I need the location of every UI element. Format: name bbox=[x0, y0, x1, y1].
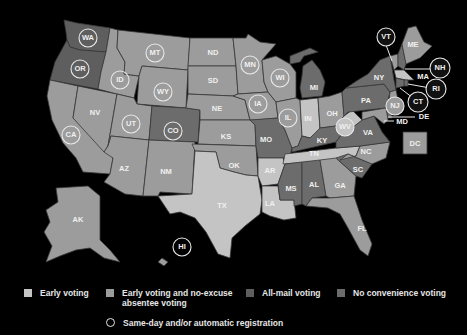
legend-label: All-mail voting bbox=[262, 288, 321, 298]
label-md: MD bbox=[396, 117, 408, 126]
label-la: LA bbox=[265, 199, 276, 208]
label-nm: NM bbox=[160, 167, 172, 176]
label-mn: MN bbox=[244, 60, 256, 69]
label-ar: AR bbox=[265, 166, 276, 175]
label-ca: CA bbox=[66, 130, 77, 139]
state-co[interactable] bbox=[149, 106, 200, 142]
circle-icon bbox=[106, 318, 115, 327]
legend-swatch-early-voting bbox=[24, 289, 32, 297]
label-ri: RI bbox=[432, 84, 440, 93]
label-nh: NH bbox=[435, 63, 446, 72]
label-tn: TN bbox=[309, 149, 319, 158]
legend-label: No convenience voting bbox=[353, 288, 446, 298]
label-al: AL bbox=[309, 180, 319, 189]
label-ct: CT bbox=[413, 97, 423, 106]
state-mi-lower[interactable] bbox=[300, 60, 325, 98]
label-wi: WI bbox=[275, 73, 284, 82]
label-wv: WV bbox=[339, 122, 351, 131]
label-nc: NC bbox=[361, 147, 372, 156]
label-ms: MS bbox=[285, 184, 296, 193]
label-dc: DC bbox=[410, 139, 421, 148]
label-or: OR bbox=[74, 64, 86, 73]
legend-swatch-early-and-absentee bbox=[106, 289, 114, 297]
label-il: IL bbox=[285, 113, 292, 122]
legend-label: Early voting and no-excuse bbox=[122, 288, 233, 298]
label-az: AZ bbox=[119, 164, 129, 173]
label-nd: ND bbox=[208, 48, 219, 57]
label-sd: SD bbox=[208, 76, 219, 85]
label-ok: OK bbox=[228, 161, 240, 170]
legend-item-registration: Same-day and/or automatic registration bbox=[106, 318, 283, 328]
label-ia: IA bbox=[254, 99, 262, 108]
label-fl: FL bbox=[357, 224, 367, 233]
legend-item-no-convenience: No convenience voting bbox=[337, 288, 446, 298]
label-mo: MO bbox=[260, 135, 272, 144]
state-ct[interactable] bbox=[396, 78, 404, 88]
legend-label-line2: absentee voting bbox=[122, 298, 233, 308]
legend-label: Early voting bbox=[40, 288, 89, 298]
legend-item-early-voting: Early voting bbox=[24, 288, 89, 298]
label-ky: KY bbox=[317, 136, 327, 145]
label-sc: SC bbox=[353, 165, 364, 174]
legend: Early voting Early voting and no-excuse … bbox=[0, 280, 467, 335]
label-nv: NV bbox=[90, 108, 100, 117]
label-hi: HI bbox=[178, 242, 186, 251]
label-wa: WA bbox=[82, 33, 95, 42]
label-ga: GA bbox=[334, 181, 346, 190]
label-nj: NJ bbox=[390, 101, 400, 110]
label-ny: NY bbox=[374, 73, 384, 82]
label-id: ID bbox=[116, 75, 124, 84]
legend-item-all-mail: All-mail voting bbox=[246, 288, 321, 298]
label-ks: KS bbox=[221, 132, 231, 141]
state-ak[interactable] bbox=[44, 186, 120, 262]
state-hi[interactable] bbox=[158, 258, 168, 266]
state-ri[interactable] bbox=[404, 80, 408, 86]
us-voting-map: NV AZ NM ND SD NE KS OK TX MO AR LA MI I… bbox=[0, 0, 467, 275]
label-co: CO bbox=[167, 126, 178, 135]
label-tx: TX bbox=[217, 201, 227, 210]
legend-label: Same-day and/or automatic registration bbox=[123, 318, 283, 328]
label-ne: NE bbox=[212, 104, 222, 113]
state-mi[interactable] bbox=[290, 48, 318, 64]
legend-item-early-and-absentee: Early voting and no-excuse absentee voti… bbox=[106, 288, 233, 308]
label-mt: MT bbox=[150, 48, 161, 57]
label-ak: AK bbox=[73, 215, 84, 224]
label-wy: WY bbox=[157, 87, 169, 96]
label-mi: MI bbox=[310, 83, 318, 92]
legend-swatch-all-mail bbox=[246, 289, 254, 297]
label-va: VA bbox=[363, 128, 373, 137]
label-de: DE bbox=[419, 112, 429, 121]
label-me: ME bbox=[407, 40, 418, 49]
label-vt: VT bbox=[381, 32, 391, 41]
label-oh: OH bbox=[326, 109, 337, 118]
legend-swatch-no-convenience bbox=[337, 289, 345, 297]
label-ut: UT bbox=[126, 119, 136, 128]
label-in: IN bbox=[304, 114, 312, 123]
label-ma: MA bbox=[417, 72, 429, 81]
label-pa: PA bbox=[361, 96, 371, 105]
